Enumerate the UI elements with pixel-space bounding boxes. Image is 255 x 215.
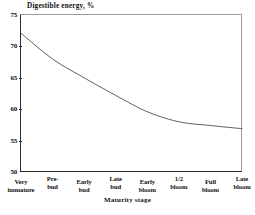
y-tick-label: 50	[3, 168, 17, 176]
x-tick-label-line: bloom	[222, 183, 255, 191]
energy-curve	[21, 33, 242, 128]
digestible-energy-chart: Digestible energy, % 757065605550 Veryim…	[0, 0, 255, 215]
y-tick-mark	[19, 46, 22, 47]
y-tick-label: 75	[3, 11, 17, 19]
x-axis-title: Maturity stage	[0, 196, 255, 204]
y-tick-label: 60	[3, 105, 17, 113]
y-tick-mark	[19, 109, 22, 110]
x-tick-label: Latebloom	[222, 175, 255, 190]
y-tick-label: 55	[3, 137, 17, 145]
y-tick-label: 65	[3, 74, 17, 82]
y-tick-mark	[19, 141, 22, 142]
y-tick-mark	[19, 78, 22, 79]
x-tick-label-line: Late	[222, 175, 255, 183]
y-tick-label: 70	[3, 42, 17, 50]
